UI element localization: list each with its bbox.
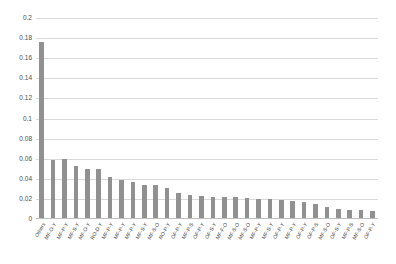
- bar-slot: [184, 18, 195, 219]
- bar-slot: [82, 18, 93, 219]
- bar: [85, 169, 90, 219]
- x-label-slot: MF-S-O: [150, 221, 161, 264]
- x-label-slot: MF-S-O: [241, 221, 252, 264]
- x-label-slot: MF-S-O: [321, 221, 332, 264]
- x-label-slot: MF-P-Y: [287, 221, 298, 264]
- bar-slot: [264, 18, 275, 219]
- x-label-slot: OF-P-Y: [276, 221, 287, 264]
- x-label-slot: MF-O-Y: [82, 221, 93, 264]
- bar: [256, 199, 261, 219]
- x-label-slot: OF-P-Y: [298, 221, 309, 264]
- bar-slot: [173, 18, 184, 219]
- x-axis-labels: OthersMF-O-YMF-P-YMF-S-YMF-O-YRO-D-YMF-P…: [36, 221, 378, 264]
- bar-slot: [287, 18, 298, 219]
- bar-slot: [116, 18, 127, 219]
- bar-slot: [310, 18, 321, 219]
- bar: [199, 196, 204, 219]
- x-label-slot: OF-P-Y: [173, 221, 184, 264]
- x-label-slot: MF-P-S: [184, 221, 195, 264]
- bar-series: [36, 18, 378, 219]
- x-label-slot: MF-O-Y: [47, 221, 58, 264]
- x-label-slot: MF-S-Y: [139, 221, 150, 264]
- bar-slot: [139, 18, 150, 219]
- bar: [131, 182, 136, 219]
- x-label-slot: OF-P-S: [310, 221, 321, 264]
- x-label-slot: MF-P-Y: [104, 221, 115, 264]
- x-label-slot: MF-S-Y: [70, 221, 81, 264]
- axis-baseline: [36, 218, 378, 219]
- bar-slot: [36, 18, 47, 219]
- bar-slot: [321, 18, 332, 219]
- bar-slot: [253, 18, 264, 219]
- bar-slot: [355, 18, 366, 219]
- bar: [108, 177, 113, 219]
- bar: [39, 42, 44, 219]
- bar-slot: [150, 18, 161, 219]
- x-label-slot: MF-P-Y: [116, 221, 127, 264]
- x-label-slot: RO-D-Y: [93, 221, 104, 264]
- bar-slot: [59, 18, 70, 219]
- bar: [176, 193, 181, 219]
- bar-slot: [230, 18, 241, 219]
- bar-slot: [127, 18, 138, 219]
- y-axis-tick-label: 0.08: [2, 136, 32, 143]
- bar-slot: [276, 18, 287, 219]
- bar: [142, 185, 147, 219]
- x-label-slot: MF-P-Y: [127, 221, 138, 264]
- bar-slot: [196, 18, 207, 219]
- plot-area: [36, 18, 378, 219]
- bar-slot: [47, 18, 58, 219]
- bar-slot: [219, 18, 230, 219]
- y-axis-tick-label: 0.06: [2, 156, 32, 163]
- bar: [74, 166, 79, 219]
- x-label-slot: Others: [36, 221, 47, 264]
- x-label-slot: MF-P-Y: [253, 221, 264, 264]
- x-label-slot: OF-S-Y: [207, 221, 218, 264]
- y-axis-tick-label: 0.14: [2, 75, 32, 82]
- bar-slot: [70, 18, 81, 219]
- x-label-slot: MF-P-Y: [59, 221, 70, 264]
- bar: [188, 195, 193, 219]
- bar: [51, 160, 56, 219]
- bar-chart: 00.020.040.060.080.10.120.140.160.180.2 …: [0, 0, 396, 264]
- bar: [153, 185, 158, 219]
- bar: [211, 197, 216, 219]
- bar: [268, 199, 273, 219]
- bar-slot: [207, 18, 218, 219]
- bar: [279, 200, 284, 219]
- x-label-slot: OF-P-Y: [196, 221, 207, 264]
- y-axis-tick-label: 0.04: [2, 176, 32, 183]
- bar-slot: [104, 18, 115, 219]
- bar: [290, 201, 295, 219]
- y-axis-tick-label: 0.16: [2, 55, 32, 62]
- bar: [302, 202, 307, 219]
- x-label-slot: MF-F-O: [219, 221, 230, 264]
- x-label-slot: MF-S-O: [355, 221, 366, 264]
- bar-slot: [241, 18, 252, 219]
- x-label-slot: OF-S-Y: [333, 221, 344, 264]
- bar-slot: [367, 18, 378, 219]
- bar-slot: [298, 18, 309, 219]
- y-axis-tick-label: 0.18: [2, 35, 32, 42]
- bar: [313, 204, 318, 219]
- bar: [245, 198, 250, 219]
- x-label-slot: OF-P-Y: [367, 221, 378, 264]
- bar: [165, 188, 170, 219]
- x-label-slot: MF-P-S: [344, 221, 355, 264]
- bar: [62, 159, 67, 219]
- x-label-slot: MF-S-Y: [264, 221, 275, 264]
- bar: [119, 180, 124, 219]
- bar-slot: [161, 18, 172, 219]
- bar: [222, 197, 227, 219]
- x-label-slot: RO-P-Y: [161, 221, 172, 264]
- y-axis-tick-label: 0.02: [2, 196, 32, 203]
- bar-slot: [93, 18, 104, 219]
- bar: [96, 169, 101, 219]
- y-axis-tick-label: 0.1: [2, 116, 32, 123]
- y-axis-tick-label: 0.12: [2, 95, 32, 102]
- y-axis-tick-label: 0: [2, 216, 32, 223]
- x-label-slot: MF-S-O: [230, 221, 241, 264]
- y-axis: 00.020.040.060.080.10.120.140.160.180.2: [0, 18, 32, 219]
- bar: [233, 197, 238, 219]
- bar-slot: [333, 18, 344, 219]
